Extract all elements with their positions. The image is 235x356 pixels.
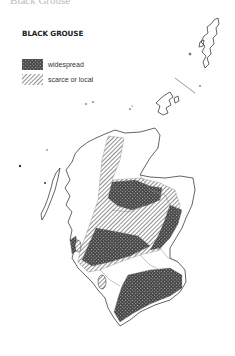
orkney-islands bbox=[156, 92, 179, 115]
shetland-islands bbox=[189, 18, 219, 68]
inset-divider-line bbox=[175, 78, 195, 93]
distribution-map bbox=[0, 0, 235, 356]
outer-hebrides bbox=[41, 168, 60, 220]
